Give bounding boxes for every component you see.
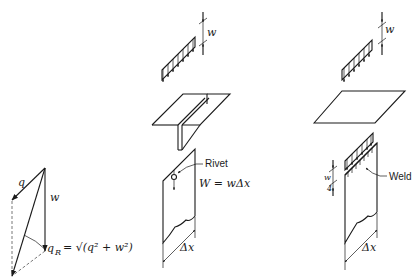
riveted-tee-panel: w Rivet W = wΔx Δx [152, 12, 251, 268]
weld-bead [345, 143, 377, 175]
vector-triangle: q w q R = √(q² + w²) [12, 168, 133, 276]
welded-plate-panel: w [314, 12, 412, 270]
resultant-subscript: R [54, 248, 61, 257]
weld-plate [329, 133, 387, 270]
length-label-middle: Δx [179, 241, 195, 254]
length-label-right: Δx [361, 241, 377, 254]
resultant-label: q [47, 242, 54, 255]
tee-section [152, 94, 230, 150]
distributed-load-middle [162, 12, 207, 82]
w-label: w [50, 191, 60, 204]
weld-load-numerator: w [324, 173, 331, 182]
rivet-leader-arrow [178, 164, 203, 173]
distributed-load-right [342, 12, 386, 82]
resultant-equation: = √(q² + w²) [63, 241, 133, 254]
rivet-icon [172, 175, 177, 180]
dashed-projection-w [12, 251, 45, 276]
diagram-canvas: q w q R = √(q² + w²) w [0, 0, 412, 280]
rivet-label: Rivet [205, 158, 228, 169]
resultant-leader-line [24, 235, 46, 250]
flat-plate [314, 91, 405, 123]
load-label-middle: w [207, 26, 217, 39]
q-label: q [18, 176, 25, 189]
weight-equation: W = wΔx [199, 177, 251, 190]
weld-label: Weld [389, 171, 412, 182]
weld-load-denominator: 4 [326, 184, 332, 193]
load-label-right: w [385, 23, 395, 36]
